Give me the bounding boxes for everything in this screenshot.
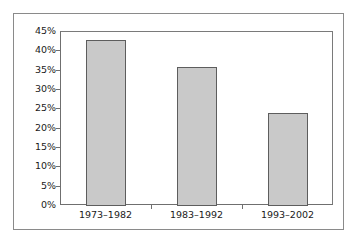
- bar-1983-1992: [177, 67, 217, 206]
- y-tick-label: 0%: [10, 200, 56, 210]
- y-tick-mark: [56, 128, 60, 129]
- y-tick-label: 30%: [10, 84, 56, 94]
- bar-1973-1982: [86, 40, 126, 206]
- x-tick-label: 1993–2002: [242, 209, 333, 221]
- y-tick-label: 15%: [10, 142, 56, 152]
- y-tick-mark: [56, 147, 60, 148]
- y-tick-mark: [56, 186, 60, 187]
- y-tick-mark: [56, 89, 60, 90]
- y-tick-label: 40%: [10, 45, 56, 55]
- y-tick-label: 5%: [10, 181, 56, 191]
- y-tick-mark: [56, 108, 60, 109]
- x-tick-label: 1983–1992: [151, 209, 242, 221]
- y-tick-mark: [56, 70, 60, 71]
- bar-chart-figure: 45% 40% 35% 30% 25% 20% 15% 10% 5% 0% 19…: [0, 0, 357, 243]
- y-tick-label: 10%: [10, 161, 56, 171]
- x-tick-label: 1973–1982: [60, 209, 151, 221]
- y-tick-label: 20%: [10, 123, 56, 133]
- y-tick-label: 35%: [10, 65, 56, 75]
- y-tick-label: 25%: [10, 103, 56, 113]
- y-tick-mark: [56, 50, 60, 51]
- y-tick-label: 45%: [10, 26, 56, 36]
- y-axis: 45% 40% 35% 30% 25% 20% 15% 10% 5% 0%: [8, 0, 56, 243]
- y-tick-mark: [56, 166, 60, 167]
- bar-1993-2002: [268, 113, 308, 206]
